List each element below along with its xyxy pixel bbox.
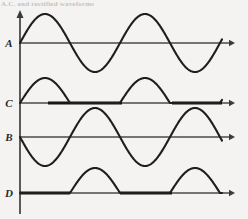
rectified-baseline-group [20, 103, 222, 193]
vertical-axis-arrowhead [17, 10, 24, 18]
trace-label-D: D [4, 187, 13, 199]
axis-arrowhead-A [229, 40, 235, 46]
axis-arrowhead-D [229, 190, 235, 196]
waveform-curve-C [20, 78, 222, 103]
waveform-figure: A.C. and rectified waveforms ACBD [0, 0, 248, 219]
horizontal-axes-group [20, 40, 235, 196]
trace-label-B: B [4, 131, 12, 143]
axis-arrowhead-B [229, 134, 235, 140]
axis-arrowhead-C [229, 100, 235, 106]
waveform-curve-D [20, 168, 222, 193]
waveform-diagram: ACBD [0, 0, 248, 219]
trace-label-A: A [4, 37, 12, 49]
trace-label-C: C [5, 97, 13, 109]
trace-labels-group: ACBD [4, 37, 13, 199]
